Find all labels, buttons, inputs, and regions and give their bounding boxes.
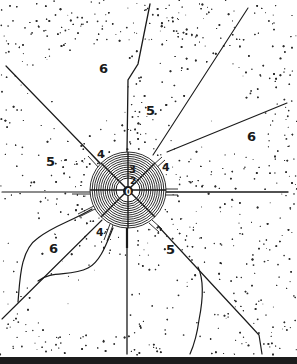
road-east-northeast	[167, 103, 287, 152]
label-zone-2: 2	[130, 176, 136, 186]
label-zone-6-lower-left: 6	[49, 241, 58, 256]
road-southwest	[2, 220, 102, 319]
label-zone-4-upper-right: 4	[162, 161, 170, 174]
label-zone-4-upper-left: 4	[97, 148, 105, 161]
label-zone-5-lower-right: 5	[166, 242, 175, 257]
road-northeast	[153, 8, 248, 155]
label-zone-6-top-left: 6	[99, 61, 108, 76]
label-zone-5-left: 5	[46, 154, 55, 169]
scan-edge-bar	[0, 357, 297, 364]
label-zone-3: 3	[129, 164, 136, 175]
label-zone-0: 0	[126, 188, 132, 197]
label-zone-5-top: 5	[146, 103, 155, 118]
label-zone-6-right: 6	[247, 129, 256, 144]
zone-diagram: 0 2 3 4 4 4 5 5 5 6 6 6	[0, 0, 297, 364]
road-south-southeast	[190, 267, 202, 354]
road-northwest	[6, 66, 100, 163]
label-zone-4-lower-left: 4	[96, 226, 104, 239]
